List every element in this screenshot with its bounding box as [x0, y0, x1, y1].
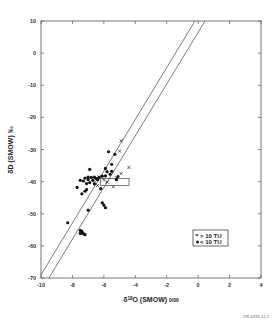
- dot-marker: [79, 179, 82, 182]
- dot-marker: [104, 174, 107, 177]
- x-tick-label: -6: [101, 282, 106, 288]
- dot-marker: [83, 190, 86, 193]
- dot-marker: [110, 163, 113, 166]
- x-marker: [120, 172, 123, 175]
- y-axis-title: δD (SMOW) ‰: [7, 126, 15, 173]
- legend-symbol-x: ×: [195, 232, 199, 238]
- dot-marker: [113, 153, 116, 156]
- x-tick-label: -10: [37, 282, 45, 288]
- x-tick-label: 0: [197, 282, 200, 288]
- legend: × > 10 TU < 10 TU: [193, 230, 228, 246]
- scatter-chart: 100-10-20-30-40-50-60-70 -10-8-6-4-2024 …: [0, 0, 276, 323]
- dot-marker: [109, 173, 112, 176]
- x-marker: [96, 184, 99, 187]
- dot-marker: [105, 170, 108, 173]
- x-marker: [105, 180, 108, 183]
- x-marker: [118, 150, 121, 153]
- y-tick-label: -50: [28, 211, 36, 217]
- y-tick-label: 0: [33, 50, 36, 56]
- dot-marker: [76, 186, 79, 189]
- dot-marker: [93, 182, 96, 185]
- dot-marker: [66, 221, 69, 224]
- reference-lines: [41, 21, 205, 278]
- legend-label-gt: > 10 TU: [200, 233, 222, 239]
- dot-marker: [88, 168, 91, 171]
- x-axis-ticks: -10-8-6-4-2024: [37, 21, 263, 288]
- dot-marker: [91, 179, 94, 182]
- dot-marker: [90, 176, 93, 179]
- y-tick-label: 10: [30, 18, 36, 24]
- dot-marker: [80, 231, 83, 234]
- legend-label-lt: < 10 TU: [200, 239, 222, 245]
- dot-marker: [110, 170, 113, 173]
- dot-marker: [96, 178, 99, 181]
- dot-marker: [104, 167, 107, 170]
- y-tick-label: -60: [28, 243, 36, 249]
- dot-marker: [107, 150, 110, 153]
- dot-marker: [99, 187, 102, 190]
- y-tick-label: -10: [28, 82, 36, 88]
- dot-marker: [116, 175, 119, 178]
- x-marker: [127, 166, 130, 169]
- y-tick-label: -20: [28, 114, 36, 120]
- x-tick-label: 2: [228, 282, 231, 288]
- x-tick-label: -2: [164, 282, 169, 288]
- data-points: [66, 139, 130, 236]
- y-tick-label: -30: [28, 147, 36, 153]
- dot-marker: [88, 181, 91, 184]
- legend-symbol-dot: [196, 241, 199, 244]
- dot-marker: [101, 175, 104, 178]
- x-tick-label: -8: [70, 282, 75, 288]
- y-tick-label: -70: [28, 275, 36, 281]
- dot-marker: [85, 182, 88, 185]
- dot-marker: [104, 206, 107, 209]
- dot-marker: [83, 176, 86, 179]
- x-tick-label: -4: [133, 282, 139, 288]
- dot-marker: [87, 209, 90, 212]
- x-tick-label: 4: [259, 282, 263, 288]
- y-tick-label: -40: [28, 179, 36, 185]
- dot-marker: [80, 192, 83, 195]
- reference-line: [41, 21, 195, 275]
- x-axis-title: δ18O (SMOW) 0/00: [123, 296, 179, 305]
- dot-marker: [115, 178, 118, 181]
- dot-marker: [82, 179, 85, 182]
- reference-line: [49, 21, 205, 278]
- dot-marker: [87, 178, 90, 181]
- dot-marker: [83, 233, 86, 236]
- figure-id: TRI-6331-12-1: [243, 314, 270, 319]
